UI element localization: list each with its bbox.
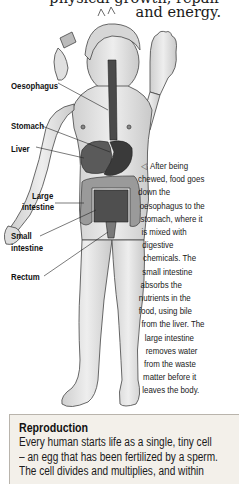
- reproduction-line: Every human starts life as a single, tin…: [19, 435, 229, 450]
- caption-line: down the: [138, 186, 216, 199]
- rectum-organ: [106, 222, 116, 238]
- caption-line: small intestine: [138, 266, 216, 279]
- caption-line: absorbs the: [138, 279, 216, 292]
- caption-line: oesophagus to the: [138, 200, 216, 213]
- label-small-intestine-2: intestine: [11, 242, 43, 253]
- label-large-intestine-1: Large: [32, 190, 53, 201]
- label-liver: Liver: [11, 143, 30, 154]
- reproduction-heading: Reproduction: [19, 421, 206, 435]
- caption-line: digestive: [138, 239, 216, 252]
- caption-line: is mixed with: [138, 226, 216, 239]
- small-intestine-organ: [94, 190, 128, 222]
- label-large-intestine-2: intestine: [22, 201, 54, 212]
- caption-line: large intestine: [138, 332, 216, 345]
- digestion-caption: ◁After being chewed, food goes down the …: [138, 160, 216, 398]
- left-arrow-icon: ◁: [141, 161, 147, 171]
- reproduction-body: Every human starts life as a single, tin…: [19, 435, 229, 479]
- caption-line: matter before it: [138, 371, 216, 384]
- caption-line: chewed, food goes: [138, 173, 216, 186]
- caption-line: chemicals. The: [138, 252, 216, 265]
- caption-line: After being: [150, 161, 188, 171]
- digestive-organs: [80, 60, 140, 238]
- head: [54, 7, 140, 92]
- reproduction-line: – an egg that has been fertilized by a s…: [19, 450, 229, 465]
- caption-line: from the liver. The: [138, 318, 216, 331]
- label-stomach: Stomach: [11, 120, 44, 131]
- caption-line: from the waste: [138, 358, 216, 371]
- reproduction-box: Reproduction Every human starts life as …: [9, 414, 239, 484]
- caption-line: removes water: [138, 345, 216, 358]
- label-small-intestine-1: Small: [11, 230, 32, 241]
- label-oesophagus: Oesophagus: [11, 80, 58, 91]
- caption-line: food, using bile: [138, 305, 216, 318]
- label-rectum: Rectum: [11, 271, 40, 282]
- caption-line: nutrients in the: [138, 292, 216, 305]
- legs: [62, 240, 145, 407]
- caption-line: stomach, where it: [138, 213, 216, 226]
- caption-line: leaves the body.: [138, 384, 216, 397]
- reproduction-line: The cell divides and multiplies, and wit…: [19, 464, 229, 479]
